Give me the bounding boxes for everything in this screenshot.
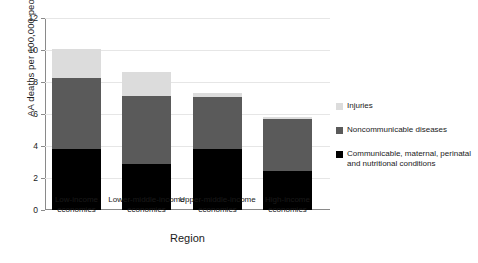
bar-segment-injuries[interactable] (52, 49, 101, 78)
bar-segment-noncommunicable-diseases[interactable] (52, 78, 101, 149)
legend-label-communicable-conditions: Communicable, maternal, perinatal and nu… (347, 149, 478, 169)
x-tick-label: Lower-middle-income economies (107, 195, 187, 215)
legend-label-noncommunicable-diseases: Noncommunicable diseases (347, 125, 447, 135)
legend-swatch-injuries (336, 103, 343, 110)
legend-label-injuries: Injuries (347, 101, 373, 111)
plot-area: 024681012 (45, 18, 330, 210)
bar-segment-injuries[interactable] (122, 72, 171, 97)
legend-swatch-communicable-conditions (336, 151, 343, 158)
legend-item-communicable-conditions[interactable]: Communicable, maternal, perinatal and nu… (336, 149, 478, 169)
legend: Injuries Noncommunicable diseases Commun… (336, 101, 478, 183)
y-tick-mark (41, 18, 45, 19)
x-axis-title: Region (45, 232, 330, 244)
bar-segment-noncommunicable-diseases[interactable] (263, 119, 312, 171)
y-tick-mark (41, 50, 45, 51)
bar-segment-noncommunicable-diseases[interactable] (122, 96, 171, 163)
x-tick-label: High-income economies (248, 195, 328, 215)
x-tick-label: Low-income economies (37, 195, 117, 215)
legend-item-noncommunicable-diseases[interactable]: Noncommunicable diseases (336, 125, 478, 135)
y-tick-label: 8 (33, 77, 38, 87)
gridline (45, 18, 330, 19)
stacked-bar-chart: AA deaths per 100,000 people 024681012 L… (0, 0, 478, 263)
y-tick-mark (41, 146, 45, 147)
y-tick-label: 4 (33, 141, 38, 151)
y-tick-label: 10 (29, 45, 38, 55)
bar-segment-noncommunicable-diseases[interactable] (193, 97, 242, 149)
bar-segment-injuries[interactable] (263, 117, 312, 119)
y-tick-label: 2 (33, 173, 38, 183)
legend-swatch-noncommunicable-diseases (336, 127, 343, 134)
y-tick-mark (41, 114, 45, 115)
y-tick-label: 6 (33, 109, 38, 119)
legend-item-injuries[interactable]: Injuries (336, 101, 478, 111)
y-tick-mark (41, 178, 45, 179)
y-tick-mark (41, 82, 45, 83)
y-tick-label: 12 (29, 13, 38, 23)
bar-segment-injuries[interactable] (193, 93, 242, 97)
x-tick-label: Upper-middle-income economies (178, 195, 258, 215)
